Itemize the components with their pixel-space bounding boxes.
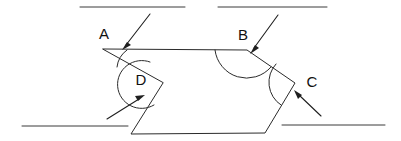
vertex-label-a: A bbox=[99, 25, 109, 42]
vertex-labels-group: A B C D bbox=[99, 25, 318, 90]
pointer-to-angle-a-line bbox=[126, 14, 150, 45]
polygon-path bbox=[103, 49, 295, 134]
vertex-label-b: B bbox=[238, 26, 248, 43]
pointer-to-angle-c-arrowhead-icon bbox=[294, 90, 302, 99]
pointer-to-angle-c-line bbox=[299, 95, 321, 116]
angle-arc-a bbox=[117, 50, 127, 67]
angle-diagram-figure: A B C D bbox=[0, 0, 401, 141]
pointer-to-angle-b-line bbox=[254, 15, 278, 48]
parallel-guide-lines bbox=[22, 7, 385, 126]
pointer-to-angle-b-arrowhead-icon bbox=[250, 45, 259, 54]
pointer-arrows-group bbox=[107, 14, 321, 119]
vertex-label-c: C bbox=[307, 73, 318, 90]
angle-arc-b bbox=[215, 50, 271, 78]
diagram-canvas: A B C D bbox=[0, 0, 401, 141]
angle-arc-c bbox=[269, 64, 281, 105]
pointer-to-angle-d-line bbox=[107, 99, 139, 119]
concave-quadrilateral-outline bbox=[103, 49, 295, 134]
vertex-label-d: D bbox=[136, 71, 147, 88]
